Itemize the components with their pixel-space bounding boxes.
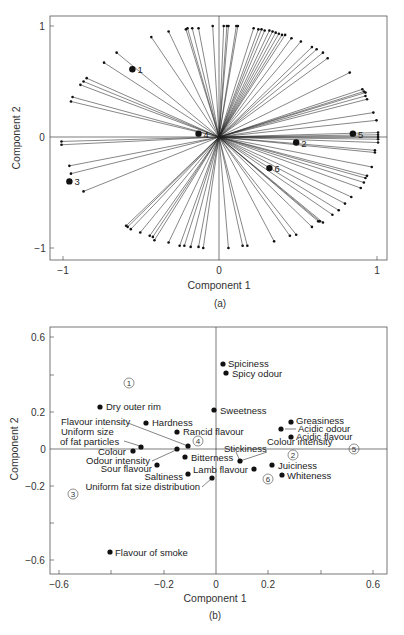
loading-endpoint	[252, 27, 255, 30]
figure: 123456 1 0 −1 −1 0 1 Component 1 Compone…	[0, 0, 404, 635]
point-hardness	[143, 420, 148, 425]
sample-point-label: 5	[358, 129, 363, 140]
loading-endpoint	[60, 143, 63, 146]
label-sweetness: Sweetness	[220, 405, 267, 416]
loading-endpoint	[70, 100, 73, 103]
label-dry-outer-rim: Dry outer rim	[106, 401, 161, 412]
loading-endpoint	[139, 231, 142, 234]
loading-endpoint	[70, 172, 73, 175]
chart-a-xlabel: Component 1	[187, 279, 250, 291]
loading-vector	[180, 137, 219, 246]
loading-endpoint	[268, 29, 271, 32]
loading-vector	[69, 137, 219, 166]
sample-point-label: 2	[301, 138, 306, 149]
loading-vector	[219, 99, 367, 137]
loading-vector	[219, 47, 312, 137]
loading-endpoint	[191, 27, 194, 30]
svg-text:4: 4	[196, 437, 201, 446]
loading-vector	[219, 137, 228, 248]
label-lamb-flavour: Lamb flavour	[193, 464, 248, 475]
svg-text:2: 2	[291, 451, 296, 460]
sample-marker-6: 6	[263, 474, 273, 484]
loading-endpoint	[322, 221, 325, 224]
loading-endpoint	[317, 220, 320, 223]
loading-endpoint	[361, 88, 364, 91]
loading-endpoint	[364, 95, 367, 98]
loading-endpoint	[152, 236, 155, 239]
loading-endpoint	[60, 140, 63, 143]
loading-endpoint	[344, 202, 347, 205]
sample-point-1	[129, 66, 135, 72]
loading-endpoint	[82, 190, 85, 193]
loading-vector	[131, 137, 219, 229]
loading-vector	[117, 53, 219, 137]
chart-b-ytick: 0.2	[31, 407, 45, 418]
label-spicy-odour: Spicy odour	[232, 368, 282, 379]
loading-vector	[104, 63, 219, 137]
loading-vector	[219, 137, 312, 227]
chart-b-xtick: −0.2	[154, 579, 174, 590]
chart-a-ytick: −1	[34, 243, 46, 254]
loading-endpoint	[377, 138, 380, 141]
loading-vector	[71, 137, 219, 174]
chart-b-xlabel: Component 1	[183, 592, 246, 604]
loading-endpoint	[189, 246, 192, 249]
point-rancid-flavour	[174, 429, 179, 434]
sample-point-label: 4	[204, 129, 209, 140]
point-spicy-odour	[223, 370, 228, 375]
loading-endpoint	[372, 111, 375, 114]
loading-endpoint	[331, 213, 334, 216]
loading-vector	[219, 35, 285, 137]
sample-marker-1: 1	[124, 378, 134, 388]
loading-endpoint	[284, 34, 287, 37]
point-spiciness	[220, 361, 225, 366]
label-flavour-of-smoke: Flavour of smoke	[115, 547, 188, 558]
sample-point-label: 6	[274, 163, 279, 174]
loading-vector	[169, 32, 219, 137]
loading-endpoint	[197, 27, 200, 30]
loading-endpoint	[348, 71, 351, 74]
loading-endpoint	[377, 133, 380, 136]
point-dry-outer-rim	[97, 404, 102, 409]
loading-vector	[80, 85, 219, 137]
point-saltiness	[185, 471, 190, 476]
chart-a-loadings-biplot: 123456 1 0 −1 −1 0 1 Component 1 Compone…	[10, 16, 387, 309]
loading-endpoint	[167, 241, 170, 244]
label-uniform-fat-size-distribution: Uniform fat size distribution	[85, 481, 200, 492]
label-whiteness: Whiteness	[287, 470, 332, 481]
svg-text:5: 5	[352, 445, 357, 454]
loading-endpoint	[326, 57, 329, 60]
loading-vector	[219, 58, 328, 137]
loading-endpoint	[150, 36, 153, 39]
point-juiciness	[269, 462, 274, 467]
loading-endpoint	[197, 246, 200, 249]
loading-endpoint	[153, 239, 156, 242]
loading-vector	[188, 28, 220, 137]
loading-endpoint	[273, 240, 276, 243]
loading-endpoint	[311, 226, 314, 229]
loading-endpoint	[211, 25, 214, 28]
chart-b-xtick: 0.6	[366, 579, 380, 590]
loading-endpoint	[167, 30, 170, 33]
sample-point-6	[266, 165, 272, 171]
point-sour-flavour	[154, 462, 159, 467]
loading-endpoint	[375, 119, 378, 122]
loading-endpoint	[374, 151, 377, 154]
loading-vector	[140, 137, 219, 232]
loading-endpoint	[278, 32, 281, 35]
loading-endpoint	[290, 37, 293, 40]
loading-vector	[153, 137, 219, 237]
point-odour-intensity	[174, 446, 179, 451]
loading-endpoint	[241, 244, 244, 247]
sample-marker-2: 2	[288, 450, 298, 460]
point-acidic-odour	[278, 426, 283, 431]
loading-endpoint	[366, 98, 369, 101]
loading-endpoint	[366, 175, 369, 178]
loading-vector	[219, 137, 274, 241]
label-rancid-flavour: Rancid flavour	[183, 426, 244, 437]
chart-b-xtick: −0.6	[49, 579, 69, 590]
loading-endpoint	[311, 46, 314, 49]
chart-a-ytick: 1	[39, 21, 45, 32]
sample-point-label: 1	[137, 64, 142, 75]
sample-marker-3: 3	[68, 489, 78, 499]
